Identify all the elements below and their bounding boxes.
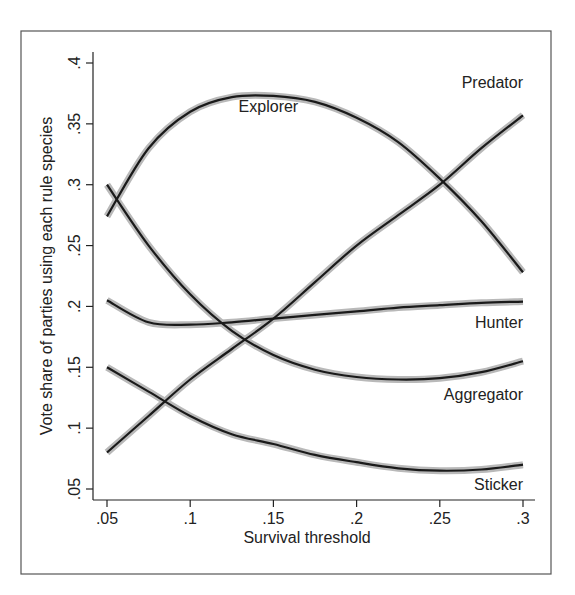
y-tick-label: .4 bbox=[66, 56, 83, 69]
y-tick-label: .35 bbox=[66, 113, 83, 135]
series-labels: ExplorerPredatorHunterAggregatorSticker bbox=[239, 74, 524, 493]
y-tick-label: .25 bbox=[66, 234, 83, 256]
explorer-confidence-band bbox=[107, 95, 523, 272]
sticker-line bbox=[107, 367, 523, 470]
x-tick-label: .25 bbox=[429, 510, 451, 527]
y-tick-label: .15 bbox=[66, 356, 83, 378]
x-axis-title: Survival threshold bbox=[243, 529, 370, 546]
chart: .05.1.15.2.25.3.35.4 .05.1.15.2.25.3 Exp… bbox=[0, 0, 575, 595]
hunter-label: Hunter bbox=[475, 314, 524, 331]
y-tick-label: .3 bbox=[66, 178, 83, 191]
y-tick-label: .1 bbox=[66, 421, 83, 434]
x-tick-label: .1 bbox=[184, 510, 197, 527]
y-tick-label: .05 bbox=[66, 478, 83, 500]
series-lines bbox=[107, 95, 523, 471]
x-tick-label: .15 bbox=[262, 510, 284, 527]
x-tick-label: .2 bbox=[350, 510, 363, 527]
y-axis-ticks: .05.1.15.2.25.3.35.4 bbox=[66, 56, 93, 500]
y-tick-label: .2 bbox=[66, 300, 83, 313]
sticker-label: Sticker bbox=[474, 476, 524, 493]
explorer-label: Explorer bbox=[239, 98, 299, 115]
explorer-line bbox=[107, 95, 523, 272]
y-axis-title: Vote share of parties using each rule sp… bbox=[38, 117, 55, 435]
x-axis-ticks: .05.1.15.2.25.3 bbox=[96, 500, 530, 527]
x-tick-label: .05 bbox=[96, 510, 118, 527]
aggregator-label: Aggregator bbox=[444, 386, 524, 403]
x-tick-label: .3 bbox=[516, 510, 529, 527]
predator-label: Predator bbox=[462, 74, 524, 91]
